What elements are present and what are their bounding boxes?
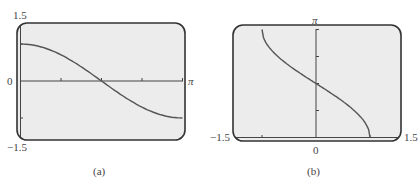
caption-a: (a): [93, 165, 105, 177]
x-max-label-b: 1.5: [404, 132, 418, 143]
plot-a: [0, 0, 210, 187]
x-min-label-b: −1.5: [210, 132, 230, 143]
graph-panel-b: π −1.5 1.5 0 (b): [210, 0, 420, 187]
y-max-label-a: 1.5: [13, 10, 27, 21]
zero-label-b: 0: [313, 145, 319, 156]
graph-panel-a: 1.5 0 −1.5 π (a): [0, 0, 210, 187]
x-max-label-a: π: [188, 76, 194, 87]
zero-label-a: 0: [7, 76, 13, 87]
plot-b: [210, 0, 420, 187]
y-min-label-a: −1.5: [7, 142, 27, 153]
y-max-label-b: π: [312, 15, 318, 26]
caption-b: (b): [307, 165, 320, 177]
